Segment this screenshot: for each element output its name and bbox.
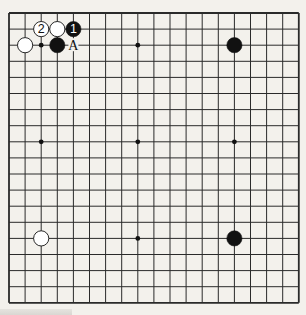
- marks-layer: A: [68, 38, 79, 53]
- star-point: [135, 139, 140, 144]
- go-board[interactable]: 21 A: [0, 0, 306, 315]
- point-label-A: A: [68, 38, 79, 53]
- stones-layer: 21: [18, 22, 242, 246]
- black-stone[interactable]: [50, 38, 65, 53]
- white-stone[interactable]: [34, 231, 49, 246]
- bottom-shadow-strip: [0, 309, 72, 315]
- move-number-label: 2: [38, 22, 45, 36]
- move-number-label: 1: [70, 22, 77, 36]
- star-point: [135, 236, 140, 241]
- star-point: [39, 43, 44, 48]
- star-point: [135, 43, 140, 48]
- board-grid: [9, 13, 299, 303]
- star-point: [39, 139, 44, 144]
- star-point: [232, 139, 237, 144]
- white-stone[interactable]: 2: [34, 22, 49, 37]
- black-stone[interactable]: [227, 231, 242, 246]
- black-stone[interactable]: 1: [66, 22, 81, 37]
- white-stone[interactable]: [50, 22, 65, 37]
- white-stone[interactable]: [18, 38, 33, 53]
- black-stone[interactable]: [227, 38, 242, 53]
